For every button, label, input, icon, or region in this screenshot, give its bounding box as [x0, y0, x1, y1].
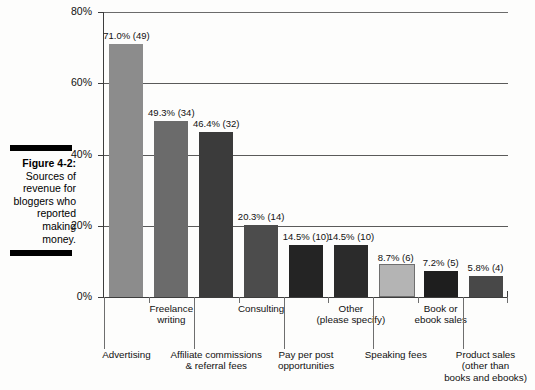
x-category-label-line: Other	[299, 303, 403, 314]
x-category-label-line: Advertising	[74, 349, 178, 360]
bar: 46.4% (32)	[199, 132, 233, 297]
y-tick-mark	[98, 83, 104, 84]
x-axis-separator	[104, 297, 105, 349]
x-category-label: Book orebook sales	[389, 303, 493, 326]
y-tick-mark	[98, 155, 104, 156]
bar: 8.7% (6)	[379, 266, 413, 297]
bar: 49.3% (34)	[154, 121, 188, 297]
x-category-label: Consulting	[209, 303, 313, 314]
bar-value-label: 71.0% (49)	[103, 30, 149, 44]
bar-rect	[469, 276, 503, 297]
y-tick-mark	[98, 226, 104, 227]
x-category-label-line: Consulting	[209, 303, 313, 314]
x-axis-line	[104, 297, 508, 298]
x-axis-separator	[507, 297, 508, 303]
bar: 14.5% (10)	[289, 245, 323, 297]
y-tick-mark	[98, 12, 104, 13]
bar-value-label: 8.7% (6)	[378, 252, 414, 266]
bar-value-label: 14.5% (10)	[283, 231, 329, 245]
bar-rect	[334, 245, 368, 297]
x-axis-separator	[463, 297, 464, 349]
bar-rect	[154, 121, 188, 297]
x-axis-separator	[284, 297, 285, 349]
y-tick-label: 0%	[56, 290, 92, 302]
bar-value-label: 5.8% (4)	[468, 262, 504, 276]
x-category-label-line: books and ebooks)	[434, 372, 535, 383]
bar-rect	[244, 225, 278, 297]
x-category-label-line: & referral fees	[164, 360, 268, 371]
x-axis-separator	[373, 297, 374, 349]
x-category-label: Pay per postopportunities	[254, 349, 358, 372]
y-tick-label: 40%	[56, 148, 92, 160]
x-category-label-line: opportunities	[254, 360, 358, 371]
bar-value-label: 14.5% (10)	[328, 231, 374, 245]
bar: 71.0% (49)	[109, 44, 143, 297]
x-category-label-line: (other than	[434, 360, 535, 371]
y-tick-label: 60%	[56, 76, 92, 88]
gridline	[104, 83, 508, 84]
x-axis-separator	[194, 297, 195, 349]
bar-value-label: 49.3% (34)	[148, 107, 194, 121]
bar-value-label: 46.4% (32)	[193, 118, 239, 132]
x-category-label: Other(please specify)	[299, 303, 403, 326]
bar-rect	[109, 44, 143, 297]
x-category-label: Advertising	[74, 349, 178, 360]
bar: 7.2% (5)	[424, 271, 458, 297]
x-category-label: Freelancewriting	[119, 303, 223, 326]
x-category-label: Affiliate commissions& referral fees	[164, 349, 268, 372]
bar-rect	[379, 264, 415, 297]
plot-area: 71.0% (49)49.3% (34)46.4% (32)20.3% (14)…	[104, 12, 508, 297]
x-category-label-line: (please specify)	[299, 314, 403, 325]
y-tick-label: 20%	[56, 219, 92, 231]
bar-rect	[289, 245, 323, 297]
y-tick-label: 80%	[56, 5, 92, 17]
x-category-label: Speaking fees	[344, 349, 448, 360]
x-category-label-line: Affiliate commissions	[164, 349, 268, 360]
x-category-label-line: ebook sales	[389, 314, 493, 325]
bar-value-label: 7.2% (5)	[423, 257, 459, 271]
x-category-label-line: Speaking fees	[344, 349, 448, 360]
bar-rect	[199, 132, 233, 297]
bar-rect	[424, 271, 458, 297]
bar: 5.8% (4)	[469, 276, 503, 297]
x-category-label-line: Product sales	[434, 349, 535, 360]
bar-value-label: 20.3% (14)	[238, 211, 284, 225]
x-category-label-line: Freelance	[119, 303, 223, 314]
bar: 20.3% (14)	[244, 225, 278, 297]
x-category-label: Product sales(other thanbooks and ebooks…	[434, 349, 535, 383]
x-category-label-line: writing	[119, 314, 223, 325]
x-category-label-line: Book or	[389, 303, 493, 314]
gridline	[104, 12, 508, 13]
x-category-label-line: Pay per post	[254, 349, 358, 360]
figure-container: Figure 4-2: Sources of revenue for blogg…	[0, 0, 535, 390]
bar: 14.5% (10)	[334, 245, 368, 297]
